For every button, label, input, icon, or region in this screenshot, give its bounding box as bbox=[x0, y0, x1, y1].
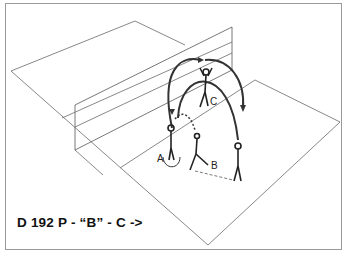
net-mid-line bbox=[75, 53, 232, 127]
player-label-a: A bbox=[157, 153, 164, 164]
diagram-figure: A B C D 192 P - “B” - C -> bbox=[0, 0, 347, 258]
rotation-arrow-icon bbox=[163, 157, 180, 167]
player-b bbox=[190, 134, 208, 171]
arrow-head-icon bbox=[198, 57, 204, 63]
arrow-head-icon bbox=[240, 105, 246, 112]
net bbox=[75, 27, 232, 150]
player-label-b: B bbox=[211, 160, 218, 171]
diagram-caption: D 192 P - “B” - C -> bbox=[17, 215, 143, 230]
player-a bbox=[168, 125, 174, 160]
player-label-c: C bbox=[210, 96, 217, 107]
movement-arrow-icon bbox=[195, 171, 233, 180]
player-d bbox=[234, 143, 241, 181]
